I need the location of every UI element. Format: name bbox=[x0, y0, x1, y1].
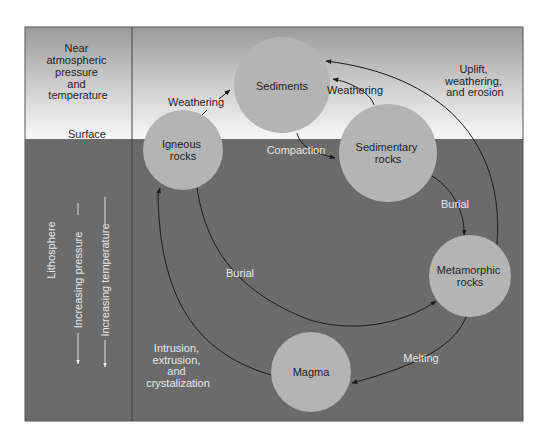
surface-label: Surface bbox=[68, 128, 106, 140]
node-sediments: Sediments bbox=[234, 37, 330, 133]
svg-text:Sediments: Sediments bbox=[256, 80, 308, 92]
label-intrusion: Intrusion, extrusion, and crystalization bbox=[146, 342, 210, 389]
node-magma: Magma bbox=[271, 332, 351, 412]
node-sedimentary-rocks: Sedimentary rocks bbox=[339, 104, 437, 202]
label-burial-igneous: Burial bbox=[226, 267, 254, 279]
label-compaction: Compaction bbox=[267, 144, 326, 156]
label-weathering-igneous: Weathering bbox=[168, 96, 224, 108]
pressure-label: Increasing pressure bbox=[72, 232, 84, 329]
node-metamorphic-rocks: Metamorphic rocks bbox=[429, 235, 511, 317]
node-igneous-rocks: Igneous rocks bbox=[143, 110, 223, 190]
svg-text:Magma: Magma bbox=[293, 366, 331, 378]
label-burial-sedimentary: Burial bbox=[441, 198, 469, 210]
rock-cycle-diagram: Near atmospheric pressure and temperatur… bbox=[0, 0, 544, 440]
label-melting: Melting bbox=[403, 352, 438, 364]
lithosphere-label: Lithosphere bbox=[45, 221, 57, 279]
label-weathering-sedimentary: Weathering bbox=[327, 84, 383, 96]
temperature-label: Increasing temperature bbox=[99, 223, 111, 336]
